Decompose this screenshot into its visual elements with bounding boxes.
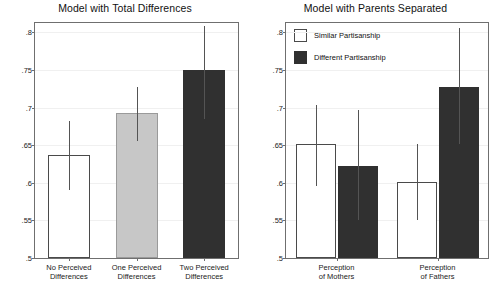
y-axis-tick-label: .5 — [277, 254, 283, 263]
panel-parents-separated: Model with Parents Separated Predicted D… — [250, 0, 501, 298]
y-axis-tick-mark — [283, 32, 286, 33]
y-axis-tick-label: .75 — [273, 66, 283, 75]
error-bar — [459, 28, 460, 145]
error-bar — [69, 121, 70, 189]
y-axis-tick-label: .8 — [277, 28, 283, 37]
panel-title-left: Model with Total Differences — [0, 2, 250, 14]
error-bar — [137, 87, 138, 142]
x-axis-tick-label: No PerceivedDifferences — [46, 263, 91, 281]
x-axis-tick-label: One PerceivedDifferences — [112, 263, 162, 281]
y-axis-tick-mark — [283, 145, 286, 146]
legend-label: Different Partisanship — [314, 53, 386, 62]
y-axis-tick-mark — [32, 183, 35, 184]
x-axis-tick-mark — [137, 258, 138, 261]
y-axis-tick-label: .5 — [26, 254, 32, 263]
x-axis-tick-mark — [337, 258, 338, 261]
y-axis-tick-label: .7 — [277, 103, 283, 112]
y-axis-tick-mark — [32, 258, 35, 259]
plot-area-right: Similar PartisanshipDifferent Partisansh… — [285, 22, 489, 259]
plot-area-left: .5.55.6.65.7.75.8No PerceivedDifferences… — [34, 22, 239, 259]
y-axis-tick-mark — [283, 70, 286, 71]
x-axis-tick-label: Two PerceivedDifferences — [180, 263, 229, 281]
y-axis-tick-label: .8 — [26, 28, 32, 37]
y-axis-tick-mark — [32, 70, 35, 71]
error-bar — [316, 105, 317, 186]
y-axis-tick-mark — [283, 108, 286, 109]
y-axis-tick-label: .75 — [22, 66, 32, 75]
legend-swatch — [294, 29, 307, 42]
y-axis-tick-mark — [283, 220, 286, 221]
x-axis-tick-mark — [204, 258, 205, 261]
y-axis-tick-mark — [32, 145, 35, 146]
legend-item: Different Partisanship — [294, 51, 386, 64]
y-axis-tick-label: .55 — [273, 216, 283, 225]
y-axis-tick-label: .6 — [26, 178, 32, 187]
error-bar — [417, 144, 418, 220]
y-axis-tick-label: .7 — [26, 103, 32, 112]
gridline — [35, 32, 238, 33]
panel-total-differences: Model with Total Differences Predicted D… — [0, 0, 250, 298]
figure-panels: Model with Total Differences Predicted D… — [0, 0, 501, 298]
gridline — [286, 32, 488, 33]
y-axis-tick-mark — [32, 32, 35, 33]
y-axis-tick-label: .65 — [22, 141, 32, 150]
panel-title-right: Model with Parents Separated — [250, 2, 501, 14]
legend: Similar PartisanshipDifferent Partisansh… — [294, 29, 386, 73]
y-axis-tick-label: .55 — [22, 216, 32, 225]
error-bar — [204, 26, 205, 118]
x-axis-tick-label: Perceptionof Mothers — [319, 263, 355, 281]
x-axis-tick-label: Perceptionof Fathers — [420, 263, 456, 281]
legend-item: Similar Partisanship — [294, 29, 386, 42]
y-axis-tick-label: .6 — [277, 178, 283, 187]
gridline — [286, 70, 488, 71]
y-axis-tick-mark — [283, 183, 286, 184]
y-axis-tick-mark — [32, 220, 35, 221]
x-axis-tick-mark — [438, 258, 439, 261]
y-axis-tick-mark — [283, 258, 286, 259]
y-axis-tick-label: .65 — [273, 141, 283, 150]
legend-swatch — [294, 51, 307, 64]
error-bar — [358, 110, 359, 221]
y-axis-tick-mark — [32, 108, 35, 109]
x-axis-tick-mark — [69, 258, 70, 261]
